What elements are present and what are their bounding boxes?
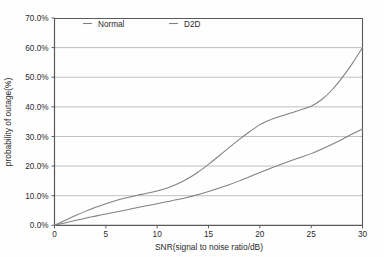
x-tick-label-30: 30 [358, 230, 368, 239]
outage-probability-line-chart: 0.0%10.0%20.0%30.0%40.0%50.0%60.0%70.0% … [0, 0, 384, 257]
chart-background [0, 0, 384, 257]
y-axis-title: probability of outage(%) [3, 78, 13, 167]
x-tick-label-20: 20 [255, 230, 265, 239]
y-tick-label-40: 40.0% [25, 103, 48, 112]
y-tick-label-30: 30.0% [25, 133, 48, 142]
y-tick-label-10: 10.0% [25, 192, 48, 201]
legend-label-normal: Normal [98, 20, 125, 29]
x-tick-label-25: 25 [307, 230, 317, 239]
x-tick-label-15: 15 [204, 230, 214, 239]
y-tick-label-60: 60.0% [25, 44, 48, 53]
y-tick-label-20: 20.0% [25, 162, 48, 171]
y-tick-label-0: 0.0% [30, 221, 49, 230]
chart-figure: 0.0%10.0%20.0%30.0%40.0%50.0%60.0%70.0% … [0, 0, 384, 257]
legend-label-d2d: D2D [184, 20, 200, 29]
x-tick-label-10: 10 [153, 230, 163, 239]
x-tick-label-0: 0 [52, 230, 57, 239]
y-tick-label-70: 70.0% [25, 14, 48, 23]
x-axis-title: SNR(signal to noise ratio/dB) [155, 242, 263, 252]
y-tick-label-50: 50.0% [25, 73, 48, 82]
x-tick-label-5: 5 [104, 230, 109, 239]
